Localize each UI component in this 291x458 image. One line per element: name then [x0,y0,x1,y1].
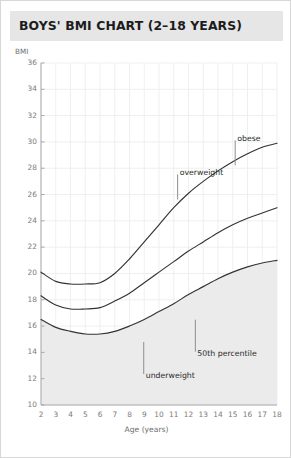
y-tick-label: 10 [17,400,37,409]
x-axis-title: Age (years) [1,425,291,434]
bmi-chart-card: BOYS' BMI CHART (2–18 YEARS) BMI Age (ye… [0,0,291,458]
x-tick-label: 18 [270,410,284,419]
y-tick-label: 18 [17,295,37,304]
x-tick-label: 7 [108,410,122,419]
annotation-obese: obese [237,134,260,143]
x-tick-label: 9 [137,410,151,419]
y-tick-label: 22 [17,242,37,251]
y-tick-label: 26 [17,190,37,199]
x-tick-label: 14 [211,410,225,419]
y-tick-label: 32 [17,111,37,120]
chart-plot-area: BMI Age (years) 101214161820222426283032… [1,1,291,458]
annotation-50th-percentile: 50th percentile [197,349,256,358]
annotation-underweight: underweight [146,371,195,380]
y-tick-label: 34 [17,84,37,93]
y-axis-title: BMI [15,47,28,56]
x-tick-label: 4 [64,410,78,419]
x-tick-label: 13 [196,410,210,419]
x-tick-label: 16 [241,410,255,419]
x-tick-label: 17 [255,410,269,419]
y-tick-label: 12 [17,374,37,383]
y-tick-label: 28 [17,163,37,172]
annotation-overweight: overweight [180,168,224,177]
x-tick-label: 5 [78,410,92,419]
x-tick-label: 10 [152,410,166,419]
bmi-chart-svg [1,1,291,458]
y-tick-label: 14 [17,347,37,356]
y-tick-label: 20 [17,268,37,277]
y-tick-label: 30 [17,137,37,146]
x-tick-label: 8 [123,410,137,419]
y-tick-label: 36 [17,58,37,67]
x-tick-label: 12 [182,410,196,419]
x-tick-label: 11 [167,410,181,419]
x-tick-label: 6 [93,410,107,419]
y-tick-label: 24 [17,216,37,225]
x-tick-label: 3 [49,410,63,419]
x-tick-label: 2 [34,410,48,419]
y-tick-label: 16 [17,321,37,330]
x-tick-label: 15 [226,410,240,419]
